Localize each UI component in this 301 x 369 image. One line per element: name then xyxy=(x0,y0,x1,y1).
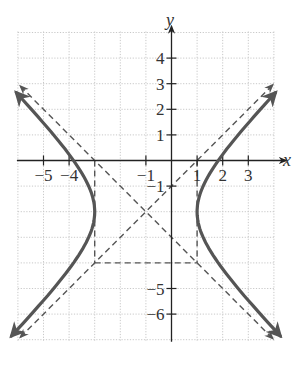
y-tick-label: −6 xyxy=(146,305,164,324)
y-tick-label: 3 xyxy=(156,75,165,94)
x-tick-label: −4 xyxy=(60,166,79,185)
x-axis-label: x xyxy=(282,150,291,170)
x-tick-label: 3 xyxy=(244,166,253,185)
y-tick-label: 2 xyxy=(156,100,165,119)
y-tick-label: 1 xyxy=(156,126,165,145)
hyperbola-branch xyxy=(197,93,280,336)
x-tick-label: 1 xyxy=(193,166,202,185)
y-axis-label: y xyxy=(164,10,174,30)
y-tick-label: −1 xyxy=(146,177,164,196)
hyperbola-branch xyxy=(12,93,95,336)
y-tick-label: 4 xyxy=(156,49,165,68)
x-tick-label: 2 xyxy=(218,166,227,185)
hyperbola-chart: −5−4−11234321−1−5−6 x y xyxy=(0,0,301,369)
y-tick-label: −5 xyxy=(146,280,164,299)
x-tick-label: −5 xyxy=(34,166,52,185)
